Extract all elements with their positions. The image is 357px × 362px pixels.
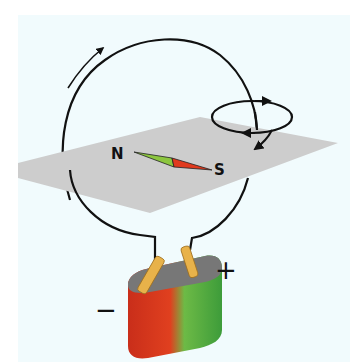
south-pole-label: S: [214, 161, 225, 179]
circuit-diagram: [0, 0, 357, 362]
north-pole-label: N: [111, 145, 124, 163]
positive-terminal-label: +: [215, 255, 237, 285]
negative-terminal-label: −: [95, 295, 117, 325]
